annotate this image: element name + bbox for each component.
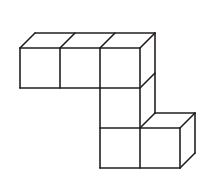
front-face-cube-2	[60, 48, 100, 88]
cube-figure-container: Isometric cube stack figure Line drawing…	[0, 0, 213, 171]
front-face-cube-3	[100, 48, 140, 88]
front-face-cube-7	[140, 128, 180, 168]
front-face-cube-4	[100, 88, 140, 128]
front-face-cube-5	[100, 128, 140, 168]
cube-stack-figure: Isometric cube stack figure Line drawing…	[0, 0, 213, 171]
filled-faces-group	[20, 33, 195, 168]
front-face-cube-1	[20, 48, 60, 88]
